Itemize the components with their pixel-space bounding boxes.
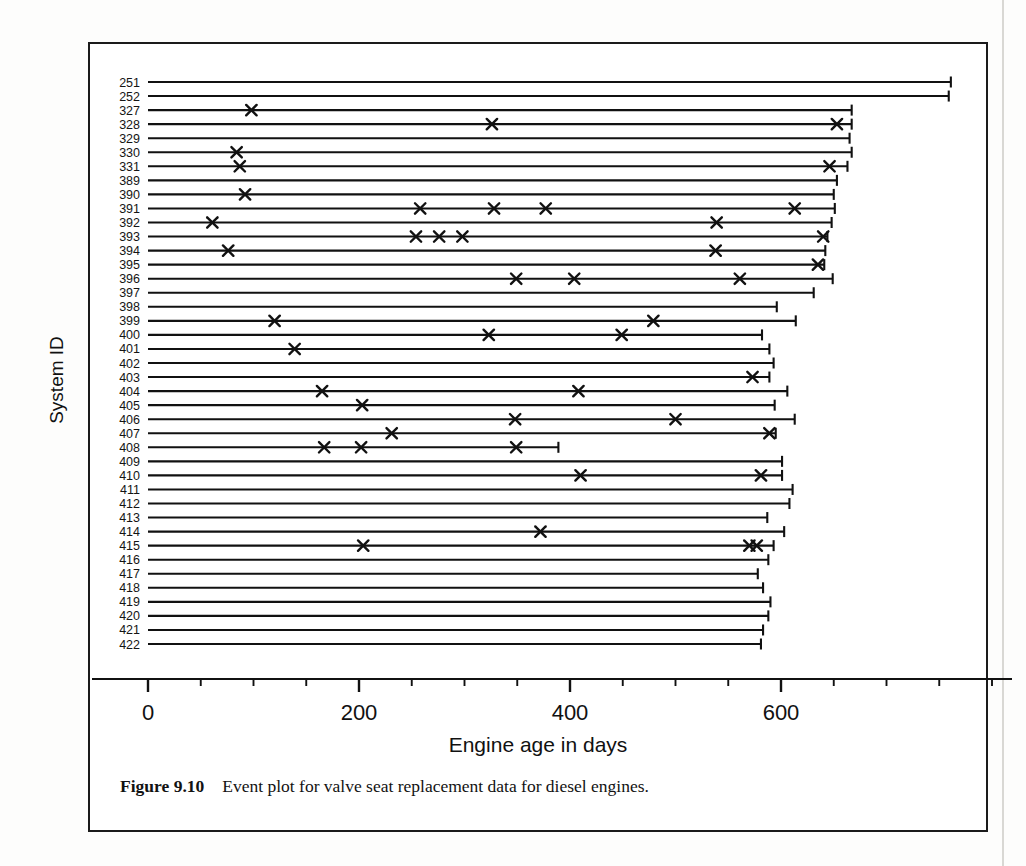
system-id-label: 330	[119, 146, 140, 160]
event-row: 416	[119, 553, 768, 567]
event-plot-figure: 2512523273283293303313893903913923933943…	[0, 0, 1026, 866]
system-id-label: 327	[119, 104, 140, 118]
event-row: 415	[119, 539, 773, 553]
system-id-label: 401	[119, 342, 140, 356]
event-row: 397	[119, 286, 814, 300]
system-id-label: 421	[119, 623, 140, 637]
event-row: 392	[119, 216, 831, 230]
system-id-label: 391	[119, 202, 140, 216]
x-axis-tick-label: 200	[341, 700, 378, 725]
system-id-label: 411	[120, 483, 140, 497]
system-id-label: 398	[119, 300, 140, 314]
event-row: 417	[119, 567, 758, 581]
event-row: 395	[119, 258, 824, 272]
event-row: 402	[119, 357, 773, 371]
system-id-label: 395	[119, 258, 140, 272]
system-id-label: 412	[119, 497, 140, 511]
event-row: 330	[119, 146, 852, 160]
event-row: 391	[119, 202, 835, 216]
system-id-label: 420	[119, 609, 140, 623]
system-id-label: 400	[119, 328, 140, 342]
system-id-label: 390	[119, 188, 140, 202]
event-row: 331	[119, 160, 847, 174]
event-row: 408	[119, 441, 558, 455]
system-id-label: 397	[119, 286, 140, 300]
event-row: 412	[119, 497, 789, 511]
system-id-label: 392	[119, 216, 140, 230]
event-row: 396	[119, 272, 833, 286]
system-id-label: 389	[119, 174, 140, 188]
system-id-label: 417	[119, 567, 140, 581]
system-id-label: 328	[119, 118, 140, 132]
y-axis-label: System ID	[46, 336, 67, 424]
event-row: 252	[119, 90, 949, 104]
system-id-label: 402	[119, 357, 140, 371]
event-row: 389	[119, 174, 837, 188]
event-row: 405	[119, 399, 775, 413]
system-id-label: 405	[119, 399, 140, 413]
figure-caption: Figure 9.10Event plot for valve seat rep…	[120, 776, 960, 797]
x-axis-tick-label: 400	[552, 700, 589, 725]
system-id-label: 413	[119, 511, 140, 525]
system-id-label: 415	[119, 539, 140, 553]
system-id-label: 408	[119, 441, 140, 455]
system-id-label: 410	[119, 469, 140, 483]
event-row: 327	[119, 104, 852, 118]
event-row: 398	[119, 300, 777, 314]
system-id-label: 416	[119, 553, 140, 567]
event-row: 401	[119, 342, 769, 356]
event-row: 407	[119, 427, 776, 441]
event-row: 418	[119, 581, 763, 595]
event-row: 419	[119, 595, 770, 609]
event-row: 390	[119, 188, 834, 202]
figure-number: Figure 9.10	[120, 776, 204, 796]
event-plot-svg: 2512523273283293303313893903913923933943…	[0, 0, 1026, 866]
system-id-label: 403	[119, 371, 140, 385]
event-row: 403	[119, 371, 769, 385]
x-axis-tick-label: 600	[763, 700, 800, 725]
system-id-label: 419	[119, 595, 140, 609]
event-row: 251	[119, 76, 951, 90]
system-id-label: 414	[119, 525, 140, 539]
event-row: 394	[119, 244, 825, 258]
system-id-label: 251	[119, 76, 140, 90]
system-id-label: 329	[119, 132, 140, 146]
system-id-label: 409	[119, 455, 140, 469]
event-row: 393	[119, 230, 828, 244]
event-row: 411	[120, 483, 793, 497]
event-row: 410	[119, 469, 782, 483]
scanned-page: 2512523273283293303313893903913923933943…	[0, 0, 1026, 866]
event-row: 420	[119, 609, 768, 623]
system-id-label: 394	[119, 244, 140, 258]
event-rows-group: 2512523273283293303313893903913923933943…	[119, 76, 951, 652]
system-id-label: 393	[119, 230, 140, 244]
system-id-label: 422	[119, 638, 140, 652]
system-id-label: 407	[119, 427, 140, 441]
system-id-label: 396	[119, 272, 140, 286]
event-row: 413	[119, 511, 767, 525]
figure-caption-text: Event plot for valve seat replacement da…	[222, 776, 649, 796]
system-id-label: 406	[119, 413, 140, 427]
event-row: 409	[119, 455, 782, 469]
x-axis-label: Engine age in days	[449, 733, 628, 756]
event-row: 422	[119, 638, 761, 652]
system-id-label: 399	[119, 314, 140, 328]
system-id-label: 418	[119, 581, 140, 595]
event-row: 328	[119, 118, 852, 132]
event-row: 421	[119, 623, 763, 637]
event-row: 404	[119, 385, 787, 399]
event-row: 399	[119, 314, 796, 328]
event-row: 400	[119, 328, 762, 342]
event-row: 414	[119, 525, 784, 539]
x-axis-group: 0200400600	[92, 679, 1012, 725]
system-id-label: 252	[119, 90, 140, 104]
x-axis-tick-label: 0	[142, 700, 154, 725]
event-row: 406	[119, 413, 795, 427]
event-row: 329	[119, 132, 849, 146]
system-id-label: 404	[119, 385, 140, 399]
system-id-label: 331	[119, 160, 140, 174]
